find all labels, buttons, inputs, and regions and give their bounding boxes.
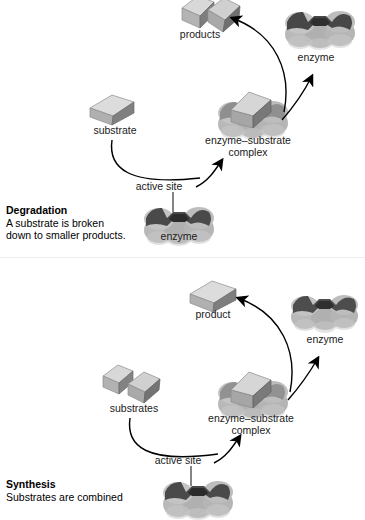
caption-degradation: Degradation A substrate is broken down t… bbox=[6, 204, 126, 242]
label-substrates: substrates bbox=[96, 403, 172, 415]
label-complex: enzyme–substrate complex bbox=[200, 135, 296, 158]
caption-synthesis-heading: Synthesis bbox=[6, 478, 123, 491]
substrates-shape bbox=[100, 362, 170, 406]
label-products: products bbox=[164, 29, 236, 41]
caption-synthesis: Synthesis Substrates are combined bbox=[6, 478, 123, 503]
caption-degradation-line2: down to smaller products. bbox=[6, 229, 126, 242]
label-enzyme-top: enzyme bbox=[294, 334, 356, 346]
caption-degradation-heading: Degradation bbox=[6, 204, 126, 217]
label-complex: enzyme–substrate complex bbox=[203, 413, 299, 436]
enzyme-shape-bottom bbox=[162, 474, 234, 520]
panel-degradation: products enzyme substrate bbox=[0, 0, 365, 258]
label-product: product bbox=[180, 309, 246, 321]
label-active-site: active site bbox=[147, 455, 209, 467]
caption-degradation-line1: A substrate is broken bbox=[6, 217, 126, 230]
label-complex-line1: enzyme–substrate bbox=[205, 134, 291, 146]
label-enzyme-bottom: enzyme bbox=[148, 231, 210, 243]
panel-synthesis: product enzyme bbox=[0, 258, 365, 508]
label-complex-line2: complex bbox=[231, 424, 270, 436]
substrate-shape bbox=[86, 92, 142, 128]
enzyme-shape-top bbox=[290, 288, 360, 332]
label-substrate: substrate bbox=[82, 125, 148, 137]
label-active-site: active site bbox=[128, 181, 190, 193]
label-complex-line1: enzyme–substrate bbox=[208, 412, 294, 424]
label-complex-line2: complex bbox=[228, 146, 267, 158]
enzyme-shape-top bbox=[284, 4, 356, 50]
label-enzyme-top: enzyme bbox=[285, 52, 347, 64]
caption-synthesis-line1: Substrates are combined bbox=[6, 491, 123, 504]
